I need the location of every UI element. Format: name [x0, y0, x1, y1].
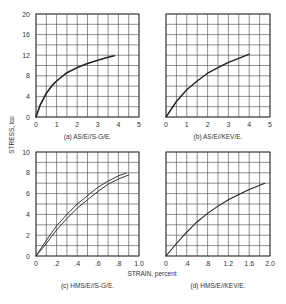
y-tick-label: 2: [26, 232, 30, 239]
y-tick-label: 8: [26, 72, 30, 79]
panel-caption: (b) AS/E//KEV/E.: [194, 133, 243, 141]
x-tick-label: 1.6: [244, 260, 254, 267]
x-tick-label: 1: [185, 121, 189, 128]
x-tick-label: 0: [34, 121, 38, 128]
x-tick-label: .4: [74, 260, 80, 267]
y-tick-label: 6: [26, 190, 30, 197]
x-tick-label: .4: [184, 260, 190, 267]
x-tick-label: 3: [226, 121, 230, 128]
panel-caption: (a) AS/E//S-G/E.: [64, 133, 112, 141]
x-tick-label: .8: [115, 260, 121, 267]
panel-caption: (c) HMS/E//S-G/E.: [61, 282, 114, 290]
x-tick-label: 4: [247, 121, 251, 128]
x-tick-label: .2: [54, 260, 60, 267]
x-tick-label: 1.0: [134, 260, 144, 267]
x-tick-label: 0: [164, 260, 168, 267]
grid: [166, 152, 270, 256]
x-tick-label: 2: [75, 121, 79, 128]
x-tick-label: 5: [268, 121, 272, 128]
panel-c: 0.2.4.6.81.00246810(c) HMS/E//S-G/E.: [22, 149, 144, 291]
x-tick-label: 4: [116, 121, 120, 128]
x-tick-label: 0: [164, 121, 168, 128]
x-tick-label: 1.2: [224, 260, 234, 267]
y-axis-label: STRESS, ksi: [8, 116, 15, 154]
x-axis-label: STRAIN, percent: [127, 270, 176, 278]
x-tick-label: 3: [96, 121, 100, 128]
x-tick-label: 2.0: [265, 260, 275, 267]
y-tick-label: 4: [26, 211, 30, 218]
y-tick-label: 10: [22, 149, 30, 156]
grid: [36, 152, 139, 256]
panel-b: 012345(b) AS/E//KEV/E.: [164, 14, 272, 141]
y-tick-label: 20: [22, 11, 30, 18]
grid: [36, 14, 139, 117]
panel-caption: (d) HMS/E//KEV/E.: [191, 282, 246, 290]
x-tick-label: 0: [34, 260, 38, 267]
x-tick-label: 2: [206, 121, 210, 128]
y-tick-label: 16: [22, 31, 30, 38]
grid: [166, 14, 270, 117]
y-tick-label: 12: [22, 52, 30, 59]
y-tick-label: 0: [26, 114, 30, 121]
series-line-curve: [166, 183, 265, 256]
panel-d: 0.4.81.21.62.0(d) HMS/E//KEV/E.: [164, 152, 275, 290]
x-tick-label: .6: [95, 260, 101, 267]
y-tick-label: 4: [26, 93, 30, 100]
x-tick-label: 1: [55, 121, 59, 128]
y-tick-label: 8: [26, 169, 30, 176]
x-tick-label: 5: [137, 121, 141, 128]
panel-a: 012345048121620(a) AS/E//S-G/E.: [22, 11, 141, 142]
x-tick-label: .8: [205, 260, 211, 267]
figure: 012345048121620(a) AS/E//S-G/E.012345(b)…: [0, 0, 286, 304]
y-tick-label: 0: [26, 253, 30, 260]
series-line-lower: [36, 175, 129, 256]
